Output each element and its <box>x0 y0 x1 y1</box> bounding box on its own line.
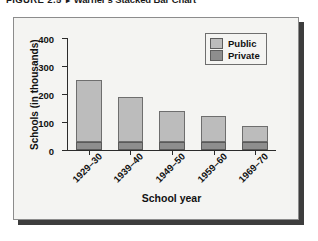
bar-segment-public <box>242 126 268 141</box>
figure-caption: FIGURE 2.5▸Warner's Stacked Bar Chart <box>6 0 312 8</box>
x-axis-tick-label: 1959–60 <box>195 151 229 185</box>
y-axis-tick-label: 300 <box>38 62 54 73</box>
legend-swatch-public <box>210 38 223 49</box>
y-axis-tick: 400 <box>62 38 68 39</box>
y-axis-tick: 0 <box>62 150 68 151</box>
x-axis-title: School year <box>67 192 276 204</box>
bar-segment-private <box>118 142 144 150</box>
x-axis-tick <box>89 150 90 155</box>
x-axis-tick-label: 1949–50 <box>153 151 187 185</box>
bar-segment-public <box>118 97 144 142</box>
legend-item-public: Public <box>210 37 260 49</box>
bar-1959–60 <box>201 116 227 150</box>
chart-panel: Schools (in thousands) 01002003004001929… <box>13 17 299 220</box>
bar-1929–30 <box>76 80 102 150</box>
bar-segment-public <box>201 116 227 141</box>
legend-label-public: Public <box>228 38 257 49</box>
figure-title: Warner's Stacked Bar Chart <box>74 0 196 5</box>
bar-segment-private <box>159 142 185 150</box>
legend-item-private: Private <box>210 49 260 61</box>
legend-label-private: Private <box>228 50 260 61</box>
bar-segment-private <box>242 142 268 150</box>
bar-1949–50 <box>159 111 185 150</box>
bar-1939–40 <box>118 97 144 150</box>
y-axis-tick-label: 200 <box>38 90 54 101</box>
x-axis-tick <box>214 150 215 155</box>
bar-segment-public <box>76 80 102 142</box>
y-axis-tick-label: 100 <box>38 118 54 129</box>
y-axis-tick-label: 0 <box>49 146 54 157</box>
bar-segment-private <box>76 142 102 150</box>
bar-segment-public <box>159 111 185 142</box>
x-axis-tick <box>172 150 173 155</box>
figure-number: FIGURE 2.5 <box>6 0 62 5</box>
bar-segment-private <box>201 142 227 150</box>
x-axis-tick-label: 1969–70 <box>236 151 270 185</box>
caption-arrow-icon: ▸ <box>62 0 74 5</box>
x-axis-tick-label: 1929–30 <box>70 151 104 185</box>
y-axis-tick: 200 <box>62 94 68 95</box>
x-axis-tick-label: 1939–40 <box>112 151 146 185</box>
y-axis-tick-label: 400 <box>38 34 54 45</box>
y-axis-tick: 100 <box>62 122 68 123</box>
chart-legend: Public Private <box>205 33 267 65</box>
legend-swatch-private <box>210 50 223 61</box>
bar-1969–70 <box>242 126 268 150</box>
x-axis-tick <box>130 150 131 155</box>
x-axis-tick <box>255 150 256 155</box>
y-axis-tick: 300 <box>62 66 68 67</box>
